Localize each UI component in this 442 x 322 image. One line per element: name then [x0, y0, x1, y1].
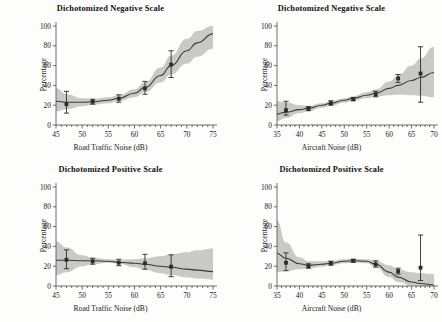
- x-tick-label: 45: [52, 130, 60, 139]
- y-tick-label: 100: [40, 183, 51, 192]
- x-tick-label: 45: [318, 291, 326, 300]
- y-tick-label: 0: [268, 121, 272, 130]
- x-tick-label: 65: [408, 291, 416, 300]
- data-point-marker: [143, 86, 147, 90]
- panel-title: Dichotomized Positive Scale: [0, 165, 221, 174]
- figure-container: 02040608010045505560657075 Dichotomized …: [0, 0, 442, 322]
- data-point-marker: [329, 261, 333, 265]
- data-point-marker: [169, 265, 173, 269]
- data-point-marker: [419, 72, 423, 76]
- x-tick-label: 55: [363, 130, 371, 139]
- confidence-band: [277, 221, 434, 286]
- panel-title: Dichotomized Positive Scale: [221, 165, 442, 174]
- data-point-marker: [374, 262, 378, 266]
- data-point-marker: [351, 97, 355, 101]
- panel-bottom-right: 0204060801003540455055606570 Dichotomize…: [221, 161, 442, 322]
- x-tick-label: 65: [408, 130, 416, 139]
- data-point-marker: [284, 261, 288, 265]
- x-tick-label: 50: [341, 130, 349, 139]
- plot-area: 02040608010045505560657075: [0, 0, 221, 161]
- x-axis-label: Road Traffic Noise (dB): [0, 143, 221, 152]
- x-tick-label: 35: [273, 130, 281, 139]
- data-point-marker: [65, 102, 69, 106]
- x-tick-label: 50: [78, 130, 86, 139]
- x-tick-label: 70: [183, 291, 191, 300]
- x-tick-label: 65: [157, 130, 165, 139]
- x-axis-label: Aircraft Noise (dB): [221, 143, 442, 152]
- data-point-marker: [307, 107, 311, 111]
- data-point-marker: [284, 108, 288, 112]
- x-tick-label: 60: [385, 291, 393, 300]
- data-point-marker: [329, 101, 333, 105]
- data-point-marker: [307, 264, 311, 268]
- y-tick-label: 100: [261, 183, 272, 192]
- confidence-band: [56, 26, 213, 111]
- y-tick-label: 100: [261, 22, 272, 31]
- data-point-marker: [169, 63, 173, 67]
- data-point-marker: [117, 261, 121, 265]
- x-tick-label: 45: [52, 291, 60, 300]
- panel-top-right: 0204060801003540455055606570 Dichotomize…: [221, 0, 442, 161]
- data-point-marker: [65, 258, 69, 262]
- plot-area: 02040608010045505560657075: [0, 161, 221, 322]
- x-tick-label: 75: [209, 130, 217, 139]
- x-tick-label: 55: [105, 291, 113, 300]
- data-point-marker: [396, 77, 400, 81]
- y-tick-label: 0: [47, 282, 51, 291]
- x-tick-label: 45: [318, 130, 326, 139]
- y-axis-label: Percentage: [260, 43, 269, 105]
- data-point-marker: [374, 92, 378, 96]
- panel-bottom-left: 02040608010045505560657075 Dichotomized …: [0, 161, 221, 322]
- panel-title: Dichotomized Negative Scale: [221, 4, 442, 13]
- data-point-marker: [91, 100, 95, 104]
- y-axis-label: Percentage: [260, 204, 269, 266]
- x-tick-label: 70: [430, 130, 438, 139]
- x-tick-label: 60: [131, 291, 139, 300]
- y-tick-label: 100: [40, 22, 51, 31]
- data-point-marker: [91, 259, 95, 263]
- x-tick-label: 40: [296, 291, 304, 300]
- x-tick-label: 50: [341, 291, 349, 300]
- x-tick-label: 55: [363, 291, 371, 300]
- x-tick-label: 40: [296, 130, 304, 139]
- x-tick-label: 55: [105, 130, 113, 139]
- data-point-marker: [117, 97, 121, 101]
- x-tick-label: 70: [430, 291, 438, 300]
- x-tick-label: 50: [78, 291, 86, 300]
- panel-top-left: 02040608010045505560657075 Dichotomized …: [0, 0, 221, 161]
- plot-area: 0204060801003540455055606570: [221, 161, 442, 322]
- x-axis-label: Aircraft Noise (dB): [221, 304, 442, 313]
- x-axis-label: Road Traffic Noise (dB): [0, 304, 221, 313]
- x-tick-label: 65: [157, 291, 165, 300]
- x-tick-label: 60: [385, 130, 393, 139]
- data-point-marker: [396, 269, 400, 273]
- x-tick-label: 60: [131, 130, 139, 139]
- plot-area: 0204060801003540455055606570: [221, 0, 442, 161]
- x-tick-label: 75: [209, 291, 217, 300]
- panel-title: Dichotomized Negative Scale: [0, 4, 221, 13]
- data-point-marker: [143, 261, 147, 265]
- x-tick-label: 70: [183, 130, 191, 139]
- y-tick-label: 0: [47, 121, 51, 130]
- y-axis-label: Percentage: [39, 204, 48, 266]
- data-point-marker: [351, 259, 355, 263]
- y-tick-label: 0: [268, 282, 272, 291]
- y-axis-label: Percentage: [39, 43, 48, 105]
- x-tick-label: 35: [273, 291, 281, 300]
- data-point-marker: [419, 266, 423, 270]
